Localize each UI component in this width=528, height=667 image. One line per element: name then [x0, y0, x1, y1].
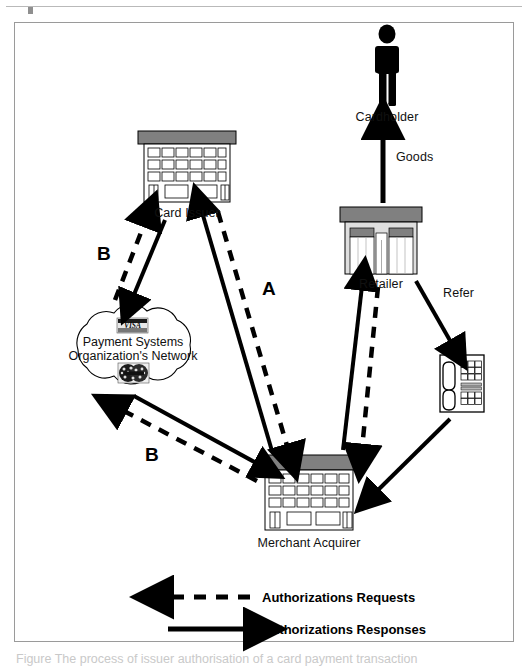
legend-response-label: Authorizations Responses — [262, 622, 426, 637]
telephone-icon — [440, 355, 484, 412]
label-route-b-upper: B — [97, 243, 111, 265]
svg-text:VISA: VISA — [124, 321, 141, 330]
arrow-acquirer-to-retailer-response — [343, 286, 362, 450]
label-route-a: A — [262, 278, 276, 300]
visa-logo: VISA — [117, 318, 148, 333]
arrow-acquirer-to-issuer-response — [202, 212, 272, 451]
person-icon — [375, 25, 399, 107]
label-goods: Goods — [396, 150, 433, 164]
office-building-icon-merchant-acquirer — [259, 455, 359, 530]
arrow-network-to-issuer-request — [115, 222, 145, 300]
label-route-b-lower: B — [145, 444, 159, 466]
label-network-line1: Payment Systems — [83, 335, 184, 350]
mastercard-logo — [118, 363, 149, 383]
label-merchant-acquirer: Merchant Acquirer — [257, 536, 360, 550]
office-building-icon-card-issuer — [138, 131, 236, 202]
arrow-acquirer-to-network-request — [122, 410, 257, 481]
arrow-phone-to-acquirer — [376, 419, 450, 492]
storefront-icon — [340, 207, 422, 274]
arrow-issuer-to-acquirer-request — [218, 212, 288, 449]
legend-request-label: Authorizations Requests — [262, 590, 415, 605]
diagram-canvas: VISA — [0, 0, 528, 667]
arrow-issuer-to-network-response — [133, 220, 165, 297]
label-card-issuer: Card Issuer — [154, 206, 220, 220]
label-retailer: Retailer — [359, 277, 403, 291]
label-cardholder: Cardholder — [356, 110, 419, 124]
arrow-retailer-to-acquirer-request — [362, 287, 378, 449]
label-network-line2: Organization's Network — [69, 349, 198, 364]
figure-bottom-caption: Figure The process of issuer authorisati… — [16, 652, 516, 666]
label-refer: Refer — [443, 286, 474, 300]
